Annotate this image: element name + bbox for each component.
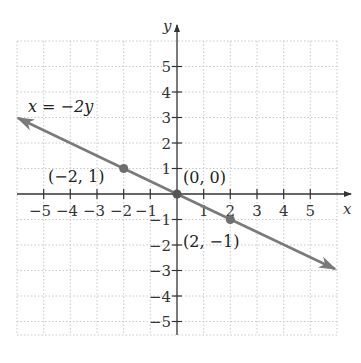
point-neg2-1 xyxy=(119,164,128,173)
x-tick-label: 5 xyxy=(306,202,316,220)
point-label-2-neg1: (2, −1) xyxy=(183,232,239,251)
y-tick-label: 4 xyxy=(161,84,171,102)
point-2-neg1 xyxy=(226,215,235,224)
coordinate-plane: −5 −4 −3 −2 −1 1 2 3 4 5 5 4 3 2 1 −1 −2… xyxy=(0,0,361,363)
x-tick-label: −5 xyxy=(29,202,51,220)
y-tick-label: −2 xyxy=(149,237,171,255)
x-axis-label: x xyxy=(343,200,352,218)
y-tick-label: 1 xyxy=(161,160,171,178)
y-tick-label: −3 xyxy=(149,262,171,280)
point-label-origin: (0, 0) xyxy=(183,168,226,187)
x-tick-label: 3 xyxy=(252,202,262,220)
y-tick-label: −5 xyxy=(149,313,171,331)
y-tick-label: 2 xyxy=(161,135,171,153)
x-tick-label: −4 xyxy=(56,202,78,220)
point-label-neg2-1: (−2, 1) xyxy=(48,167,104,186)
x-tick-labels: −5 −4 −3 −2 −1 1 2 3 4 5 xyxy=(29,202,315,220)
y-tick-label: 3 xyxy=(161,109,171,127)
equation-label: x = −2y xyxy=(28,97,94,116)
y-tick-label: 5 xyxy=(161,58,171,76)
y-tick-label: −1 xyxy=(149,211,171,229)
x-tick-label: −3 xyxy=(83,202,105,220)
point-origin xyxy=(173,190,182,199)
y-tick-label: −4 xyxy=(149,288,171,306)
x-tick-label: 4 xyxy=(279,202,289,220)
y-axis-label: y xyxy=(162,17,172,35)
x-tick-label: −2 xyxy=(110,202,132,220)
